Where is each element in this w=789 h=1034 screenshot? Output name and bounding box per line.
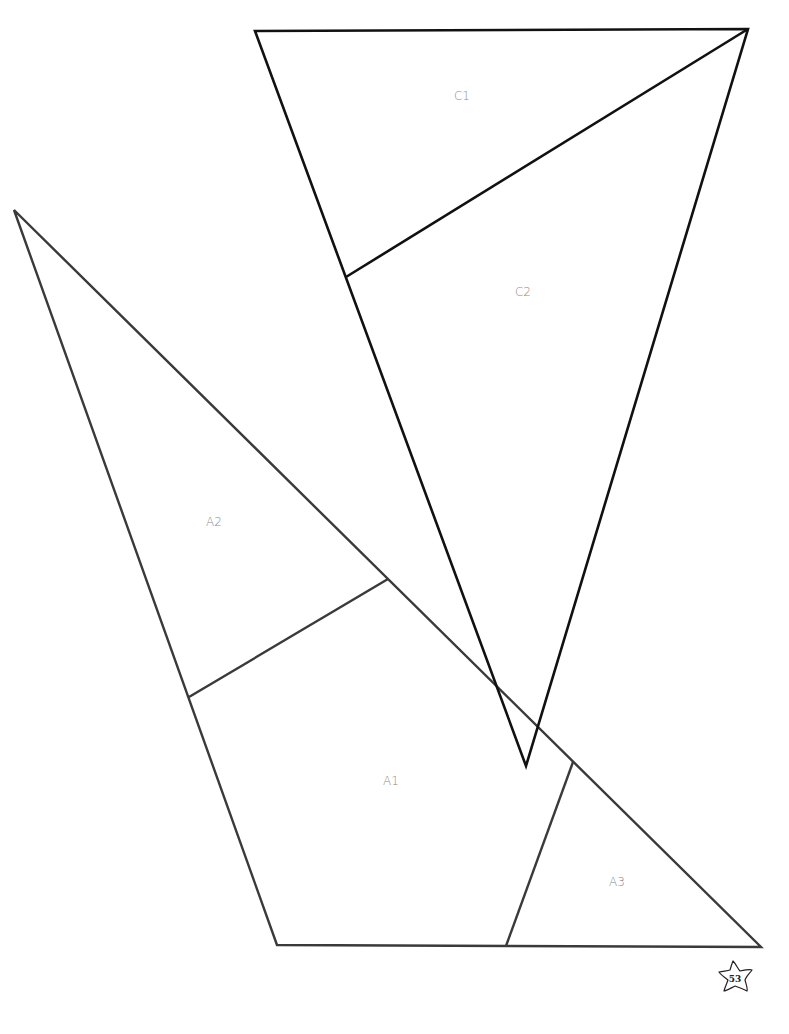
page-number-badge: 53 xyxy=(719,961,752,991)
label-a1: A1 xyxy=(383,774,399,788)
label-a2: A2 xyxy=(206,515,222,529)
seam-a1-a3 xyxy=(506,762,573,946)
piece-a xyxy=(14,210,761,947)
label-c2: C2 xyxy=(515,285,531,299)
pattern-canvas: C1 C2 A2 A1 A3 53 xyxy=(0,0,789,1034)
page-number: 53 xyxy=(729,974,742,984)
piece-c xyxy=(255,29,748,766)
seam-a2-a1 xyxy=(189,579,388,697)
label-c1: C1 xyxy=(454,89,470,103)
seam-c1-c2 xyxy=(346,29,748,277)
label-a3: A3 xyxy=(609,875,625,889)
piece-c-outline xyxy=(255,29,748,766)
